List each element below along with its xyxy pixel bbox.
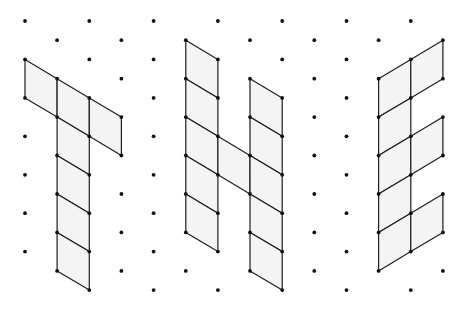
grid-dot (312, 77, 316, 81)
grid-dot (87, 58, 91, 62)
grid-dot (248, 77, 252, 81)
rhombus-cell (25, 59, 57, 117)
grid-dot (280, 58, 284, 62)
grid-dot (87, 19, 91, 23)
grid-dot (216, 19, 220, 23)
grid-dot (377, 77, 381, 81)
grid-dot (120, 154, 124, 158)
grid-dot (248, 231, 252, 235)
grid-dot (216, 288, 220, 292)
grid-dot (184, 115, 188, 119)
grid-dot (409, 250, 413, 254)
grid-dot (120, 192, 124, 196)
grid-dot (409, 134, 413, 138)
grid-dot (184, 77, 188, 81)
grid-dot (23, 250, 27, 254)
grid-dot (409, 211, 413, 215)
grid-dot (120, 38, 124, 42)
grid-dot (87, 288, 91, 292)
letter-t (25, 59, 121, 290)
rhombus-cell (89, 98, 121, 156)
grid-dot (152, 134, 156, 138)
grid-dot (23, 96, 27, 100)
grid-dot (345, 288, 349, 292)
grid-dot (87, 96, 91, 100)
grid-dot (23, 173, 27, 177)
grid-dot (55, 231, 59, 235)
isometric-dot-grid-canvas (0, 0, 465, 309)
grid-dot (345, 134, 349, 138)
grid-dot (152, 211, 156, 215)
grid-dot (377, 192, 381, 196)
rhombus-cell (411, 194, 443, 252)
grid-dot (184, 269, 188, 273)
grid-dot (120, 231, 124, 235)
grid-dot (345, 96, 349, 100)
grid-dot (377, 154, 381, 158)
grid-dot (152, 250, 156, 254)
grid-dot (312, 154, 316, 158)
grid-dot (409, 173, 413, 177)
grid-dot (377, 38, 381, 42)
grid-dot (248, 38, 252, 42)
grid-dot (441, 192, 445, 196)
grid-dot (280, 96, 284, 100)
grid-dot (216, 173, 220, 177)
grid-dot (409, 19, 413, 23)
grid-dot (184, 38, 188, 42)
grid-dot (152, 96, 156, 100)
grid-dot (377, 269, 381, 273)
grid-dot (87, 250, 91, 254)
grid-dot (216, 96, 220, 100)
grid-dot (248, 192, 252, 196)
grid-dot (152, 58, 156, 62)
grid-dot (345, 211, 349, 215)
grid-dot (312, 192, 316, 196)
grid-dot (55, 77, 59, 81)
grid-dot (441, 154, 445, 158)
grid-dot (55, 154, 59, 158)
grid-dot (216, 58, 220, 62)
grid-dot (312, 231, 316, 235)
grid-dot (23, 19, 27, 23)
grid-dot (409, 288, 413, 292)
grid-dot (55, 269, 59, 273)
grid-dot (441, 115, 445, 119)
grid-dot (248, 115, 252, 119)
grid-dot (23, 58, 27, 62)
grid-dot (312, 38, 316, 42)
grid-dot (216, 250, 220, 254)
grid-dot (441, 38, 445, 42)
grid-dot (280, 288, 284, 292)
grid-dot (441, 231, 445, 235)
grid-dot (184, 154, 188, 158)
grid-dot (441, 77, 445, 81)
grid-dot (280, 134, 284, 138)
grid-dot (55, 115, 59, 119)
grid-dot (280, 211, 284, 215)
grid-dot (248, 269, 252, 273)
grid-dot (87, 173, 91, 177)
grid-dot (55, 38, 59, 42)
rhombus-cell (411, 40, 443, 98)
grid-dot (345, 173, 349, 177)
letter-e (379, 40, 443, 271)
grid-dot (345, 58, 349, 62)
grid-dot (441, 269, 445, 273)
grid-dot (184, 192, 188, 196)
grid-dot (152, 288, 156, 292)
grid-dot (345, 19, 349, 23)
grid-dot (345, 250, 349, 254)
grid-dot (23, 134, 27, 138)
grid-dot (216, 211, 220, 215)
grid-dot (152, 19, 156, 23)
grid-dot (23, 211, 27, 215)
grid-dot (280, 250, 284, 254)
grid-dot (377, 115, 381, 119)
grid-dot (409, 58, 413, 62)
grid-dot (87, 134, 91, 138)
grid-dot (377, 231, 381, 235)
grid-dot (87, 211, 91, 215)
grid-dot (216, 134, 220, 138)
letters-layer (25, 40, 443, 290)
